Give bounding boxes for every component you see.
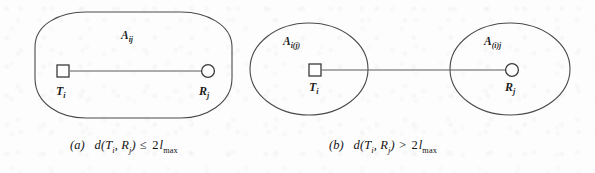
panel-b-right-region-label: A(i)j — [484, 36, 501, 50]
panel-a-caption: (a) d(Ti, Rj) ≤ 2lmax — [70, 138, 178, 155]
panel-a-region-label: Aij — [121, 30, 133, 44]
panel-b-transmitter-label: Ti — [309, 81, 319, 97]
panel-a-transmitter-label: Ti — [56, 85, 66, 101]
panel-a-receiver-circle-marker — [202, 65, 215, 78]
panel-a-transmitter-square-marker — [57, 65, 69, 77]
panel-a-receiver-label: Rj — [199, 85, 209, 101]
panel-b-transmitter-square-marker — [309, 64, 321, 76]
panel-b-caption: (b) d(Ti, Rj) > 2lmax — [329, 138, 437, 155]
figure-canvas: Aij Ti Rj Ai(j) A(i)j Ti Rj (a) d(Ti, Rj… — [0, 0, 595, 173]
panel-b-left-region-label: Ai(j) — [283, 36, 300, 50]
panel-b-receiver-circle-marker — [506, 64, 519, 77]
panel-b-receiver-label: Rj — [505, 81, 515, 97]
